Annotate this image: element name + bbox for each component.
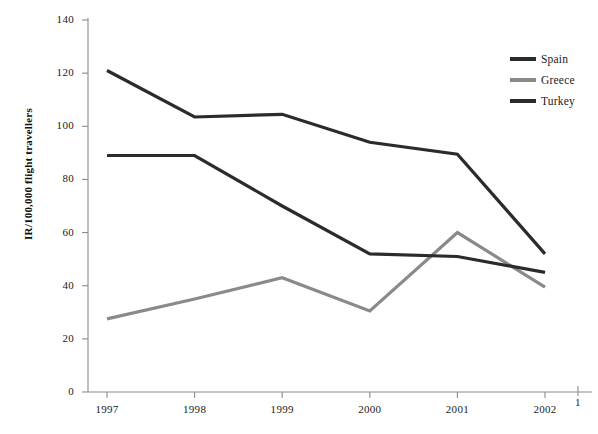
stray-axis-label: 1: [575, 396, 581, 408]
y-axis-tick-label: 20: [34, 333, 74, 344]
y-axis-tick-label: 100: [34, 120, 74, 131]
legend-swatch-turkey: [510, 99, 536, 103]
line-chart: 020406080100120140 199719981999200020012…: [0, 0, 598, 434]
x-axis-tick-label: 1999: [252, 404, 312, 415]
y-axis-tick-label: 120: [34, 67, 74, 78]
y-axis-tick-label: 0: [34, 386, 74, 397]
series-line-spain: [107, 70, 545, 253]
plot-area: [0, 0, 598, 434]
legend-label: Spain: [541, 53, 568, 65]
legend-swatch-spain: [510, 57, 536, 61]
legend-item-greece[interactable]: Greece: [510, 69, 594, 90]
series-line-turkey: [107, 156, 545, 273]
data-series-group: [107, 70, 545, 318]
y-axis-tick-label: 60: [34, 227, 74, 238]
x-axis-tick-label: 2000: [340, 404, 400, 415]
x-axis-tick-label: 2002: [515, 404, 575, 415]
series-line-greece: [107, 233, 545, 319]
x-axis-tick-label: 1997: [77, 404, 137, 415]
y-axis-title: IR/100,000 flight travellers: [22, 94, 34, 254]
legend-label: Turkey: [541, 95, 575, 107]
y-axis-tick-label: 140: [34, 14, 74, 25]
legend-item-turkey[interactable]: Turkey: [510, 90, 594, 111]
y-axis-tick-label: 40: [34, 280, 74, 291]
legend-item-spain[interactable]: Spain: [510, 48, 594, 69]
legend: SpainGreeceTurkey: [510, 48, 594, 111]
legend-label: Greece: [541, 74, 575, 86]
x-axis-tick-label: 1998: [165, 404, 225, 415]
x-axis-tick-label: 2001: [427, 404, 487, 415]
y-axis-ticks: [82, 20, 88, 392]
legend-swatch-greece: [510, 78, 536, 82]
y-axis-tick-label: 80: [34, 173, 74, 184]
